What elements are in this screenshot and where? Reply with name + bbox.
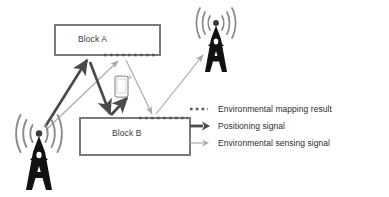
tower-right-hole: [214, 39, 219, 45]
tower-left-base-brace: [32, 172, 45, 178]
sensing-arrow-block-a-to-block-b: [126, 60, 152, 114]
thick-arrow-marker: [189, 119, 215, 133]
positioning-arrow-block-b-to-phone: [111, 98, 127, 115]
tower-left-hole: [36, 152, 41, 158]
tower-left-antenna-top: [36, 130, 42, 136]
tower-right-antenna-top: [213, 20, 219, 26]
diagram-canvas: Block A Block B Environmental mapping re…: [0, 0, 389, 197]
legend-item-positioning: Positioning signal: [189, 118, 389, 134]
positioning-arrow-tower-to-block-a: [45, 60, 87, 127]
block-a-rect: [55, 25, 160, 55]
block-a-label: Block A: [78, 34, 107, 44]
legend-item-mapping: Environmental mapping result: [189, 101, 389, 117]
legend: Environmental mapping result Positioning…: [189, 101, 389, 152]
schematic-illustration: [0, 0, 389, 197]
smartphone-icon: [115, 76, 131, 97]
tower-left-mast: [26, 136, 52, 190]
legend-label-positioning: Positioning signal: [215, 121, 285, 131]
positioning-arrow-block-a-to-block-b: [90, 62, 110, 114]
tower-right-mast: [205, 26, 227, 73]
block-b-label: Block B: [112, 128, 142, 138]
tower-right-base-brace: [210, 56, 222, 62]
base-station-tower-right: [196, 8, 235, 72]
smartphone-signal-arc-inner: [129, 77, 130, 78]
smartphone-screen: [117, 79, 126, 93]
legend-label-sensing: Environmental sensing signal: [215, 138, 330, 148]
legend-item-sensing: Environmental sensing signal: [189, 135, 389, 151]
thin-arrow-marker: [189, 136, 215, 150]
legend-label-mapping: Environmental mapping result: [215, 104, 332, 114]
base-station-tower-left: [16, 115, 62, 190]
block-a-shape: [55, 25, 160, 55]
dotted-line-marker: [189, 102, 215, 116]
